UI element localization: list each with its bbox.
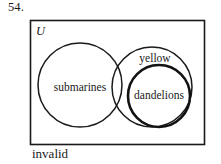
set-label-dandelions: dandelions	[134, 89, 184, 101]
venn-diagram-canvas: U submarines yellow dandelions	[0, 0, 221, 164]
venn-diagram-figure: 54. U submarines yellow dandelions inval…	[0, 0, 221, 164]
universe-label: U	[36, 24, 46, 38]
question-number: 54.	[8, 0, 24, 14]
set-label-yellow: yellow	[139, 52, 171, 65]
validity-caption: invalid	[32, 146, 68, 162]
set-label-submarines: submarines	[54, 81, 107, 93]
